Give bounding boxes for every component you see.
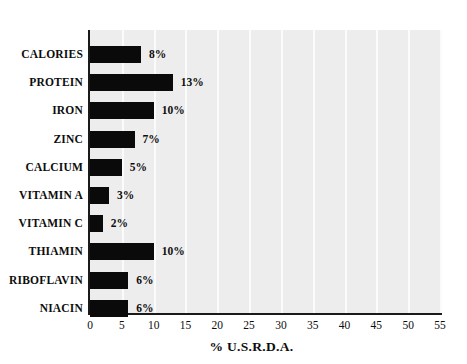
bar-row: CALORIES8% xyxy=(0,46,467,63)
bar-value-zinc: 7% xyxy=(143,130,160,148)
x-tick-label-15: 15 xyxy=(170,318,200,332)
category-label-thiamin: THIAMIN xyxy=(29,242,83,260)
bar-value-riboflavin: 6% xyxy=(136,271,153,289)
bar-riboflavin xyxy=(90,272,128,289)
bar-value-vitamin-a: 3% xyxy=(117,186,134,204)
bar-row: ZINC7% xyxy=(0,131,467,148)
bar-value-protein: 13% xyxy=(181,73,204,91)
bar-value-niacin: 6% xyxy=(136,299,153,317)
bar-iron xyxy=(90,102,154,119)
bar-row: NIACIN6% xyxy=(0,300,467,317)
bar-row: VITAMIN A3% xyxy=(0,187,467,204)
bar-vitamin-a xyxy=(90,187,109,204)
category-label-vitamin-c: VITAMIN C xyxy=(18,214,83,232)
category-label-vitamin-a: VITAMIN A xyxy=(19,186,83,204)
x-tick-label-5: 5 xyxy=(107,318,137,332)
category-label-niacin: NIACIN xyxy=(40,299,83,317)
category-label-calories: CALORIES xyxy=(21,45,83,63)
category-label-riboflavin: RIBOFLAVIN xyxy=(9,271,83,289)
bar-vitamin-c xyxy=(90,215,103,232)
category-label-calcium: CALCIUM xyxy=(25,158,83,176)
category-label-iron: IRON xyxy=(52,101,83,119)
bar-row: IRON10% xyxy=(0,102,467,119)
bar-niacin xyxy=(90,300,128,317)
category-label-protein: PROTEIN xyxy=(29,73,83,91)
bar-row: VITAMIN C2% xyxy=(0,215,467,232)
x-tick-label-20: 20 xyxy=(202,318,232,332)
x-tick-label-45: 45 xyxy=(361,318,391,332)
bar-chart: CALORIES8%PROTEIN13%IRON10%ZINC7%CALCIUM… xyxy=(0,0,467,364)
x-tick-label-55: 55 xyxy=(425,318,455,332)
category-label-zinc: ZINC xyxy=(53,130,83,148)
bar-value-vitamin-c: 2% xyxy=(111,214,128,232)
x-tick-label-35: 35 xyxy=(298,318,328,332)
x-tick-label-10: 10 xyxy=(139,318,169,332)
bar-row: CALCIUM5% xyxy=(0,159,467,176)
bar-value-thiamin: 10% xyxy=(162,242,185,260)
bar-protein xyxy=(90,74,173,91)
x-tick-label-40: 40 xyxy=(330,318,360,332)
bar-value-iron: 10% xyxy=(162,101,185,119)
x-tick-label-25: 25 xyxy=(234,318,264,332)
bar-row: RIBOFLAVIN6% xyxy=(0,272,467,289)
bar-row: THIAMIN10% xyxy=(0,243,467,260)
x-tick-label-50: 50 xyxy=(393,318,423,332)
bar-row: PROTEIN13% xyxy=(0,74,467,91)
bar-zinc xyxy=(90,131,135,148)
x-tick-label-30: 30 xyxy=(266,318,296,332)
bar-value-calories: 8% xyxy=(149,45,166,63)
x-axis-title: % U.S.R.D.A. xyxy=(0,339,467,355)
x-tick-label-0: 0 xyxy=(75,318,105,332)
bar-thiamin xyxy=(90,243,154,260)
bar-value-calcium: 5% xyxy=(130,158,147,176)
bar-calories xyxy=(90,46,141,63)
bar-calcium xyxy=(90,159,122,176)
